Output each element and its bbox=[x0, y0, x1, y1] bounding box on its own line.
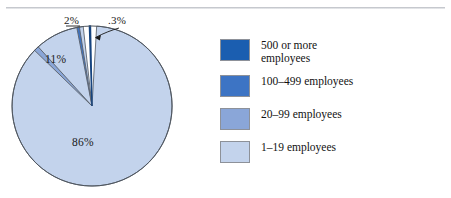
legend-swatch-1-19-employees bbox=[220, 141, 250, 163]
legend-item-20-99-employees[interactable]: 20–99 employees bbox=[220, 107, 445, 131]
legend: 500 or more employees 100–499 employees … bbox=[220, 38, 445, 173]
legend-item-100-499-employees[interactable]: 100–499 employees bbox=[220, 74, 445, 98]
pie-chart-graphic bbox=[0, 0, 205, 198]
legend-item-1-19-employees[interactable]: 1–19 employees bbox=[220, 140, 445, 164]
legend-item-500-or-more-employees[interactable]: 500 or more employees bbox=[220, 38, 445, 65]
chart-area: 2% .3% 11% 86% bbox=[0, 0, 205, 198]
legend-label-1-19-employees: 1–19 employees bbox=[261, 140, 336, 154]
slice-label-11-percent: 11% bbox=[45, 53, 66, 65]
legend-swatch-20-99-employees bbox=[220, 108, 250, 130]
slice-label-86-percent: 86% bbox=[72, 136, 94, 148]
slice-label-03-percent: .3% bbox=[108, 14, 126, 26]
slice-label-2-percent: 2% bbox=[64, 14, 79, 26]
legend-swatch-100-499-employees bbox=[220, 75, 250, 97]
legend-label-500-or-more-employees: 500 or more employees bbox=[261, 38, 317, 65]
pie-chart-figure: 2% .3% 11% 86% 500 or more employees 100… bbox=[0, 0, 451, 198]
legend-label-100-499-employees: 100–499 employees bbox=[261, 74, 353, 88]
legend-label-20-99-employees: 20–99 employees bbox=[261, 107, 342, 121]
legend-swatch-500-or-more-employees bbox=[220, 39, 250, 61]
